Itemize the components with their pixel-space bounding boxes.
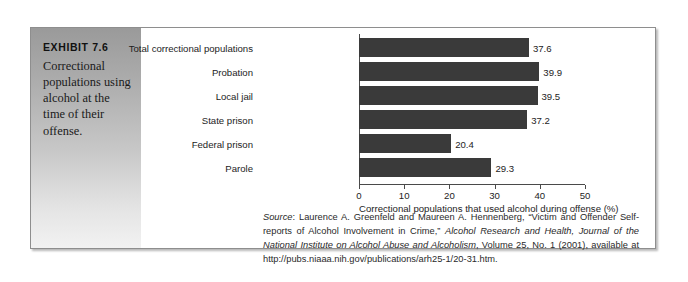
bar (359, 158, 491, 177)
x-axis-tick (359, 185, 360, 189)
bar-value-label: 39.5 (538, 90, 561, 101)
bar-value-label: 37.6 (529, 42, 552, 53)
exhibit-figure-frame: EXHIBIT 7.6 Correctional populations usi… (30, 27, 656, 249)
x-axis-tick-label: 30 (489, 190, 500, 201)
bar (359, 110, 527, 129)
x-axis-tick (449, 185, 450, 189)
bar-category-label: Total correctional populations (129, 42, 253, 53)
x-axis-tick-label: 10 (399, 190, 410, 201)
bar-row: Federal prison20.4 (141, 134, 657, 153)
bar-category-label: State prison (202, 114, 253, 125)
exhibit-caption-panel: EXHIBIT 7.6 Correctional populations usi… (31, 28, 141, 248)
bar-value-label: 37.2 (527, 114, 550, 125)
bar-row: Total correctional populations37.6 (141, 38, 657, 57)
x-axis-tick (585, 185, 586, 189)
x-axis-tick-label: 0 (356, 190, 361, 201)
x-axis-line (359, 184, 585, 185)
bar (359, 62, 539, 81)
x-axis-tick-label: 20 (444, 190, 455, 201)
bar (359, 86, 538, 105)
bar-chart-plot: Total correctional populations37.6Probat… (141, 34, 657, 212)
bar-row: Local jail39.5 (141, 86, 657, 105)
bar-value-label: 29.3 (491, 162, 514, 173)
x-axis-tick (540, 185, 541, 189)
bar (359, 38, 529, 57)
x-axis-tick (404, 185, 405, 189)
bar-row: Parole29.3 (141, 158, 657, 177)
source-lead-label: Source (263, 212, 292, 222)
chart-area: Total correctional populations37.6Probat… (141, 28, 655, 248)
bar-row: State prison37.2 (141, 110, 657, 129)
bar-category-label: Federal prison (192, 138, 253, 149)
x-axis-tick-label: 40 (534, 190, 545, 201)
bar (359, 134, 451, 153)
bar-category-label: Parole (225, 162, 253, 173)
source-note: Source: Laurence A. Greenfeld and Mauree… (263, 210, 639, 267)
exhibit-number-label: EXHIBIT 7.6 (43, 41, 132, 53)
bar-value-label: 20.4 (451, 138, 474, 149)
exhibit-caption-text: Correctional populations using alcohol a… (43, 58, 132, 139)
bar-value-label: 39.9 (539, 66, 562, 77)
bar-row: Probation39.9 (141, 62, 657, 81)
x-axis-tick (495, 185, 496, 189)
x-axis-tick-label: 50 (580, 190, 591, 201)
bar-category-label: Probation (212, 66, 253, 77)
bar-category-label: Local jail (216, 90, 253, 101)
